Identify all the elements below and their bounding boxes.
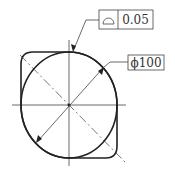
diagonal-dashed-line xyxy=(20,55,125,162)
feature-control-frame: 0.05 xyxy=(99,10,153,29)
diameter-arrow-upper xyxy=(98,67,104,75)
diameter-arrow-lower xyxy=(36,135,42,143)
diameter-leader xyxy=(103,62,128,68)
fcf-leader xyxy=(74,20,99,49)
profile-of-line-icon xyxy=(103,18,114,24)
fcf-tolerance-value: 0.05 xyxy=(122,13,149,27)
technical-drawing: ϕ100 0.05 xyxy=(0,0,175,183)
diameter-label: ϕ100 xyxy=(130,56,161,70)
